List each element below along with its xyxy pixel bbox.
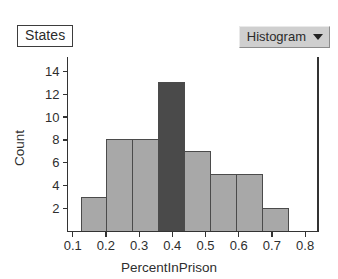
histogram-bar[interactable] bbox=[81, 197, 107, 231]
y-tick-label: 2 bbox=[52, 201, 59, 216]
histogram-canvas: 0.10.20.30.40.50.60.70.8 2468101214 Perc… bbox=[0, 0, 338, 279]
y-axis-ticks: 2468101214 bbox=[45, 64, 67, 216]
x-tick-label: 0.3 bbox=[130, 238, 148, 253]
y-tick-label: 10 bbox=[45, 110, 59, 125]
x-tick-label: 0.5 bbox=[196, 238, 214, 253]
y-axis-title: Count bbox=[12, 130, 27, 166]
y-tick-label: 12 bbox=[45, 87, 59, 102]
histogram-bar[interactable] bbox=[237, 174, 263, 231]
y-tick-label: 8 bbox=[52, 132, 59, 147]
histogram-bar[interactable] bbox=[185, 151, 211, 231]
x-tick-label: 0.4 bbox=[163, 238, 181, 253]
histogram-bar[interactable] bbox=[211, 174, 237, 231]
histogram-bar[interactable] bbox=[263, 209, 289, 232]
y-tick-label: 14 bbox=[45, 64, 59, 79]
x-axis-title: PercentInPrison bbox=[121, 260, 217, 275]
x-tick-label: 0.1 bbox=[64, 238, 82, 253]
x-axis-ticks: 0.10.20.30.40.50.60.70.8 bbox=[64, 232, 314, 253]
histogram-window: States Histogram 0.10.20.30.40.50.60.70.… bbox=[0, 0, 338, 279]
histogram-bar[interactable] bbox=[107, 140, 133, 232]
histogram-plot: 0.10.20.30.40.50.60.70.8 2468101214 Perc… bbox=[0, 0, 338, 279]
x-tick-label: 0.7 bbox=[263, 238, 281, 253]
x-tick-label: 0.8 bbox=[296, 238, 314, 253]
y-tick-label: 6 bbox=[52, 155, 59, 170]
x-tick-label: 0.6 bbox=[230, 238, 248, 253]
bars-group bbox=[81, 83, 289, 232]
histogram-bar[interactable] bbox=[133, 140, 159, 232]
histogram-bar[interactable] bbox=[159, 83, 185, 232]
y-tick-label: 4 bbox=[52, 178, 59, 193]
x-tick-label: 0.2 bbox=[97, 238, 115, 253]
